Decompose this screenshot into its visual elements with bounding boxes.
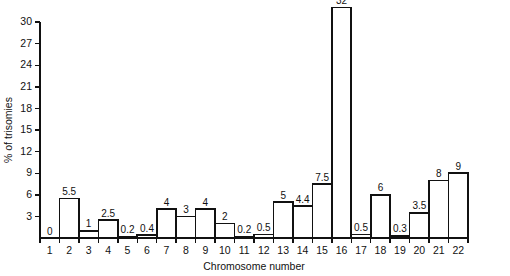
value-label-chromosome-2: 5.5 [62, 186, 76, 197]
x-tick-label-5: 5 [125, 244, 131, 256]
bar-chromosome-8 [176, 216, 195, 238]
x-tick-label-18: 18 [375, 244, 387, 256]
x-tick-label-22: 22 [452, 244, 464, 256]
value-label-chromosome-12: 0.5 [257, 222, 271, 233]
bar-chromosome-3 [79, 231, 98, 238]
y-axis-title: % of trisomies [2, 97, 14, 163]
x-axis-title: Chromosome number [203, 260, 305, 272]
bar-chromosome-15 [312, 184, 331, 238]
bar-chromosome-17 [351, 234, 370, 238]
value-label-chromosome-7: 4 [164, 197, 170, 208]
value-label-chromosome-21: 8 [436, 168, 442, 179]
value-label-chromosome-22: 9 [455, 161, 461, 172]
bar-chromosome-22 [449, 173, 468, 238]
bar-chromosome-7 [157, 209, 176, 238]
x-tick-label-15: 15 [316, 244, 328, 256]
bar-series [59, 8, 468, 238]
x-tick-label-20: 20 [414, 244, 426, 256]
bar-chromosome-12 [254, 234, 273, 238]
value-label-chromosome-14: 4.4 [296, 194, 310, 205]
value-label-chromosome-6: 0.4 [140, 223, 154, 234]
y-tick-label-21: 21 [20, 80, 32, 92]
y-tick-label-6: 6 [26, 188, 32, 200]
value-label-chromosome-9: 4 [203, 197, 209, 208]
y-tick-label-15: 15 [20, 123, 32, 135]
bar-chromosome-18 [371, 195, 390, 238]
x-tick-label-21: 21 [433, 244, 445, 256]
bar-chromosome-16 [332, 8, 351, 238]
bar-chromosome-4 [98, 220, 117, 238]
value-label-chromosome-20: 3.5 [412, 200, 426, 211]
bar-chromosome-9 [196, 209, 215, 238]
value-label-chromosome-15: 7.5 [315, 172, 329, 183]
value-label-chromosome-11: 0.2 [237, 224, 251, 235]
x-tick-label-10: 10 [219, 244, 231, 256]
bar-chromosome-10 [215, 224, 234, 238]
x-tick-label-14: 14 [297, 244, 309, 256]
bar-chromosome-20 [410, 213, 429, 238]
bar-chromosome-2 [59, 198, 78, 238]
x-tick-label-1: 1 [47, 244, 53, 256]
y-tick-label-30: 30 [20, 15, 32, 27]
value-label-chromosome-10: 2 [222, 211, 228, 222]
bar-chromosome-21 [429, 180, 448, 238]
x-tick-label-8: 8 [183, 244, 189, 256]
bar-chromosome-14 [293, 206, 312, 238]
value-label-chromosome-17: 0.5 [354, 222, 368, 233]
chart-canvas: 36912151821242730 05.512.50.20.443420.20… [0, 0, 510, 276]
bar-chromosome-13 [273, 202, 292, 238]
value-label-chromosome-5: 0.2 [121, 224, 135, 235]
y-axis: 36912151821242730 [20, 15, 40, 238]
x-tick-label-12: 12 [258, 244, 270, 256]
x-tick-labels: 12345678910111213141516171819202122 [47, 244, 464, 256]
x-tick-label-9: 9 [202, 244, 208, 256]
x-tick-label-6: 6 [144, 244, 150, 256]
y-tick-label-24: 24 [20, 58, 32, 70]
y-tick-label-9: 9 [26, 166, 32, 178]
bar-chromosome-6 [137, 235, 156, 238]
value-label-chromosome-16: 32 [336, 0, 348, 6]
value-label-chromosome-8: 3 [183, 204, 189, 215]
value-label-chromosome-3: 1 [86, 218, 92, 229]
bar-chromosome-19 [390, 236, 409, 238]
value-label-chromosome-19: 0.3 [393, 223, 407, 234]
x-tick-label-2: 2 [66, 244, 72, 256]
x-tick-label-13: 13 [277, 244, 289, 256]
trisomy-histogram-figure: 36912151821242730 05.512.50.20.443420.20… [0, 0, 510, 276]
y-tick-label-27: 27 [20, 37, 32, 49]
value-label-chromosome-13: 5 [280, 190, 286, 201]
value-label-chromosome-18: 6 [378, 182, 384, 193]
y-tick-label-18: 18 [20, 102, 32, 114]
bar-value-labels: 05.512.50.20.443420.20.554.47.5320.560.3… [47, 0, 462, 236]
y-tick-label-12: 12 [20, 145, 32, 157]
x-tick-label-7: 7 [164, 244, 170, 256]
x-tick-label-4: 4 [105, 244, 111, 256]
y-tick-label-3: 3 [26, 210, 32, 222]
bar-chromosome-11 [235, 237, 254, 238]
value-label-chromosome-4: 2.5 [101, 208, 115, 219]
x-tick-label-3: 3 [86, 244, 92, 256]
x-tick-label-19: 19 [394, 244, 406, 256]
value-label-chromosome-1: 0 [47, 226, 53, 237]
x-tick-label-16: 16 [336, 244, 348, 256]
bar-chromosome-5 [118, 237, 137, 238]
x-tick-label-17: 17 [355, 244, 367, 256]
x-tick-label-11: 11 [239, 244, 250, 256]
